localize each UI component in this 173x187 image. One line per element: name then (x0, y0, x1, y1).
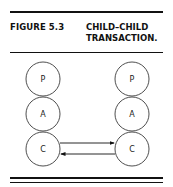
right-child-label: C (129, 145, 135, 154)
right-parent-label: P (130, 75, 135, 84)
left-parent-label: P (41, 75, 46, 84)
transaction-diagram: P A C P A C (0, 0, 173, 187)
bottom-rule-thin (10, 182, 163, 183)
right-adult-label: A (129, 110, 135, 119)
bottom-rule-thick (10, 177, 163, 179)
left-child-label: C (40, 145, 46, 154)
left-adult-label: A (40, 110, 46, 119)
